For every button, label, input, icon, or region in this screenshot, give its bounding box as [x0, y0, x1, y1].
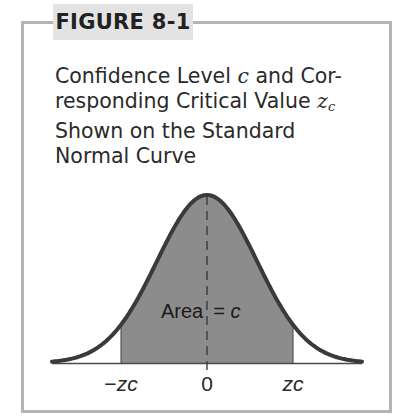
normal-curve-plot	[0, 0, 410, 419]
axis-label-zero: 0	[201, 372, 213, 396]
axis-label-zc: zc	[283, 372, 304, 396]
axis-label-neg-zc: −zc	[104, 372, 137, 396]
area-equals-c-label: Area= c	[161, 300, 241, 323]
